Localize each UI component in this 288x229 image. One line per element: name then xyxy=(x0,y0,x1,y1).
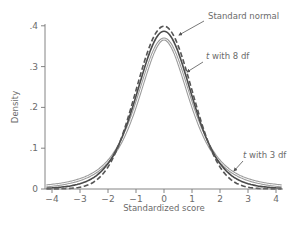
annotation-label: t with 3 df xyxy=(243,150,287,160)
x-tick-label: 3 xyxy=(245,194,251,204)
annotation-label: Standard normal xyxy=(208,11,279,21)
x-ticks: −4−3−2−101234 xyxy=(45,189,279,204)
x-axis-title: Standardized score xyxy=(123,203,205,213)
annotation-arrow xyxy=(179,21,204,35)
x-tick-label: −4 xyxy=(45,194,59,204)
y-axis-title: Density xyxy=(10,91,20,123)
x-tick-label: −2 xyxy=(101,194,114,204)
curve-t-with-3-df xyxy=(46,39,281,186)
density-chart: 0.1.2.3.4 −4−3−2−101234 Standardized sco… xyxy=(0,0,288,229)
x-tick-label: 4 xyxy=(273,194,279,204)
y-tick-label: .2 xyxy=(29,102,38,112)
y-tick-label: .3 xyxy=(29,62,38,72)
y-tick-label: 0 xyxy=(32,184,38,194)
y-tick-label: .1 xyxy=(29,143,38,153)
curve-annotations: Standard normalt with 8 dft with 3 df xyxy=(179,11,287,171)
x-tick-label: 2 xyxy=(217,194,223,204)
x-tick-label: −3 xyxy=(73,194,86,204)
y-tick-label: .4 xyxy=(29,21,38,31)
annotation-arrow xyxy=(187,62,203,72)
annotation-label: t with 8 df xyxy=(206,51,250,61)
annotation-arrow xyxy=(234,161,243,171)
y-ticks: 0.1.2.3.4 xyxy=(29,21,45,194)
curve-t-with-3-df-inner xyxy=(46,39,281,186)
